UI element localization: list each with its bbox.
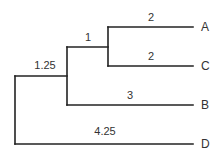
leaf-label-c: C <box>201 59 210 73</box>
leaf-label-b: B <box>201 98 209 112</box>
branch-length-ac-to-a: 2 <box>148 11 154 23</box>
branch-length-abc-to-b: 3 <box>127 89 133 101</box>
leaf-label-a: A <box>201 20 209 34</box>
branch-length-ac-to-c: 2 <box>148 50 154 62</box>
leaf-label-d: D <box>201 137 210 151</box>
branch-length-root-to-abc: 1.25 <box>34 59 55 71</box>
phylogenetic-tree: 1.25 1 2 2 3 4.25 A C B D <box>0 0 224 154</box>
branch-length-abc-to-ac: 1 <box>85 31 91 43</box>
branch-length-root-to-d: 4.25 <box>94 125 115 137</box>
